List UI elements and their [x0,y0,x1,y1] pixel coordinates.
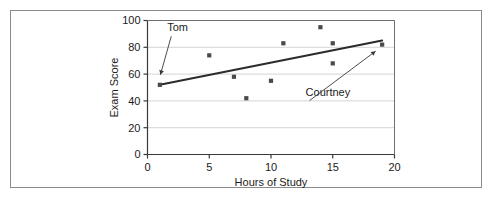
y-tick-label: 40 [128,95,140,107]
data-point [158,83,162,87]
annotation-label: Tom [167,21,188,33]
gridlines [148,21,395,128]
x-tick-label: 5 [206,161,212,173]
annotation-label: Courtney [306,86,351,98]
annotation-arrowhead [371,51,376,56]
data-point [331,41,335,45]
data-point [244,96,248,100]
x-tick-label: 20 [388,161,400,173]
y-tick-label: 20 [128,122,140,134]
x-axis-tick-labels: 05101520 [144,161,400,173]
data-point [207,53,211,57]
x-tick-label: 10 [265,161,277,173]
data-point [318,25,322,29]
y-axis-tick-labels: 020406080100 [122,14,140,160]
y-tick-label: 100 [122,14,140,26]
data-point [380,43,384,47]
y-axis-title: Exam Score [108,58,120,118]
data-point [281,41,285,45]
chart-svg: 020406080100 05101520 TomCourtney Hours … [0,0,493,199]
data-point [331,61,335,65]
y-tick-label: 80 [128,41,140,53]
y-tick-label: 0 [134,148,140,160]
y-tick-label: 60 [128,68,140,80]
figure-root: 020406080100 05101520 TomCourtney Hours … [0,0,493,199]
x-axis-ticks [148,155,395,159]
x-tick-label: 0 [144,161,150,173]
x-axis-title: Hours of Study [235,176,308,188]
data-point [269,79,273,83]
scatter-chart: 020406080100 05101520 TomCourtney Hours … [0,0,493,199]
x-tick-label: 15 [327,161,339,173]
data-point [232,75,236,79]
annotation-leader-line [160,36,171,75]
annotations: TomCourtney [159,21,375,100]
